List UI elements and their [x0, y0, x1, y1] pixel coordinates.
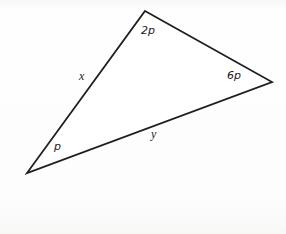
angle-label-right: 6p	[227, 70, 241, 81]
angle-label-bottom-left: p	[54, 141, 61, 152]
answer-row: 9. x y	[0, 188, 286, 230]
side-label-y: y	[151, 128, 156, 140]
side-label-x: x	[79, 70, 84, 82]
angle-label-top: 2p	[141, 25, 155, 36]
worksheet-page: 2p 6p p x y 9. x y	[0, 0, 286, 234]
